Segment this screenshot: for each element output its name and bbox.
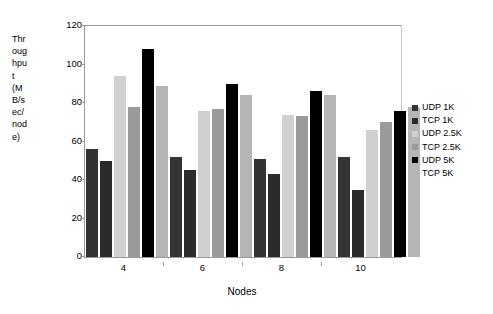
- legend-item: UDP 5K: [412, 154, 490, 167]
- y-axis-label-line: e): [12, 131, 38, 143]
- bar: [324, 95, 336, 257]
- x-axis-ticks: 46810: [84, 262, 400, 276]
- bar: [282, 115, 294, 257]
- chart-figure: Throughput(MB/sec/node) 020406080100120 …: [0, 0, 493, 314]
- bar: [254, 159, 266, 257]
- bar: [114, 76, 126, 257]
- bar: [240, 95, 252, 257]
- x-tick-label: 4: [84, 262, 163, 276]
- legend-item: TCP 5K: [412, 167, 490, 180]
- bar: [86, 149, 98, 257]
- bar-group: [85, 26, 169, 257]
- bar: [394, 111, 406, 257]
- y-axis-label: Throughput(MB/sec/node): [12, 33, 38, 143]
- legend-swatch-icon: [412, 171, 418, 177]
- y-axis-label-line: hpu: [12, 57, 38, 69]
- y-axis-label-line: B/s: [12, 94, 38, 106]
- bar: [156, 86, 168, 257]
- y-axis-label-line: t: [12, 70, 38, 82]
- legend-label: UDP 1K: [422, 103, 454, 112]
- chart-title-cutoff: [60, 0, 290, 6]
- bar: [212, 109, 224, 257]
- bar: [310, 91, 322, 257]
- x-tick-separator: [321, 262, 322, 266]
- y-axis-label-line: Thr: [12, 33, 38, 45]
- x-axis-label: Nodes: [84, 286, 400, 297]
- bar: [128, 107, 140, 257]
- bar: [268, 174, 280, 257]
- y-tick-label: 100: [58, 59, 82, 69]
- y-tick-label: 120: [58, 20, 82, 30]
- bar-group: [337, 26, 421, 257]
- y-axis-label-line: ec/: [12, 106, 38, 118]
- bars-layer: [85, 26, 401, 257]
- x-tick-separator: [242, 262, 243, 266]
- legend-item: TCP 1K: [412, 114, 490, 127]
- y-axis-ticks: 020406080100120: [52, 25, 82, 256]
- bar: [380, 122, 392, 257]
- y-axis-label-line: oug: [12, 45, 38, 57]
- legend-swatch-icon: [412, 118, 418, 124]
- legend-label: UDP 5K: [422, 156, 454, 165]
- legend-item: UDP 1K: [412, 101, 490, 114]
- x-tick-label: 6: [163, 262, 242, 276]
- bar: [338, 157, 350, 257]
- bar-group: [253, 26, 337, 257]
- bar: [226, 84, 238, 257]
- y-tick-label: 80: [58, 97, 82, 107]
- bar: [170, 157, 182, 257]
- legend-swatch-icon: [412, 157, 418, 163]
- bar: [198, 111, 210, 257]
- bar: [352, 190, 364, 257]
- x-tick-separator: [163, 262, 164, 266]
- bar: [142, 49, 154, 257]
- legend-swatch-icon: [412, 144, 418, 150]
- bar-group: [169, 26, 253, 257]
- bar: [184, 170, 196, 257]
- bar: [366, 130, 378, 257]
- bar: [100, 161, 112, 257]
- legend-label: TCP 2.5K: [422, 143, 461, 152]
- legend-item: UDP 2.5K: [412, 127, 490, 140]
- x-tick-label: 8: [242, 262, 321, 276]
- x-tick-label: 10: [321, 262, 400, 276]
- legend-label: UDP 2.5K: [422, 129, 462, 138]
- y-axis-label-line: (M: [12, 82, 38, 94]
- y-tick-label: 60: [58, 136, 82, 146]
- y-tick-label: 20: [58, 213, 82, 223]
- legend-item: TCP 2.5K: [412, 141, 490, 154]
- chart-legend: UDP 1KTCP 1KUDP 2.5KTCP 2.5KUDP 5KTCP 5K: [412, 101, 490, 180]
- legend-label: TCP 5K: [422, 169, 453, 178]
- bar: [296, 116, 308, 257]
- y-axis-label-line: nod: [12, 118, 38, 130]
- legend-swatch-icon: [412, 105, 418, 111]
- y-tick-label: 40: [58, 174, 82, 184]
- legend-swatch-icon: [412, 131, 418, 137]
- plot-area: [84, 25, 402, 258]
- y-tick-label: 0: [58, 251, 82, 261]
- legend-label: TCP 1K: [422, 116, 453, 125]
